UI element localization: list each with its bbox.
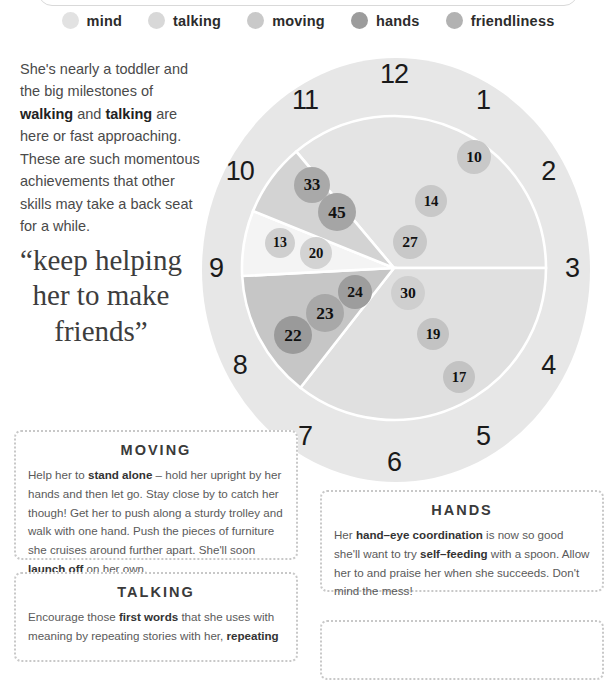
clock-pie-chart: 121234567891011 101427301917242322132033… <box>196 52 596 488</box>
clock-number-3: 3 <box>565 255 579 282</box>
data-bubble-24[interactable]: 24 <box>338 275 372 309</box>
intro-bold-walking: walking <box>20 106 73 122</box>
info-box-body: Her hand–eye coordination is now so good… <box>334 526 590 601</box>
info-box-partial <box>320 620 604 680</box>
top-rounded-panel <box>38 0 578 6</box>
legend-item-friendliness[interactable]: friendliness <box>446 12 555 29</box>
intro-line-2-pre: milestones of <box>68 83 153 99</box>
data-bubble-27[interactable]: 27 <box>393 225 427 259</box>
intro-bold-talking: talking <box>105 106 152 122</box>
data-bubble-20[interactable]: 20 <box>300 237 332 269</box>
intro-line-7: may take a back <box>55 196 161 212</box>
legend-item-talking[interactable]: talking <box>148 12 221 29</box>
moving-text-2: – hold her upright by her hands and then… <box>28 468 283 556</box>
circle-swatch-icon <box>62 12 79 29</box>
data-bubble-23[interactable]: 23 <box>306 294 344 332</box>
legend-label: mind <box>87 13 122 29</box>
clock-number-2: 2 <box>541 157 555 184</box>
talking-text-1: Encourage those <box>28 610 119 623</box>
hands-text-1: Her <box>334 528 356 541</box>
clock-number-1: 1 <box>476 86 490 113</box>
data-bubble-19[interactable]: 19 <box>417 318 449 350</box>
circle-swatch-icon <box>446 12 463 29</box>
info-box-title: TALKING <box>28 584 284 600</box>
data-bubble-10[interactable]: 10 <box>457 140 491 174</box>
legend-label: talking <box>173 13 221 29</box>
data-bubble-45[interactable]: 45 <box>318 193 356 231</box>
data-bubble-17[interactable]: 17 <box>443 361 475 393</box>
talking-bold-2: repeating <box>227 629 279 642</box>
chart-legend: mind talking moving hands friendliness <box>0 12 616 29</box>
legend-label: hands <box>376 13 420 29</box>
info-box-body: Encourage those first words that she use… <box>28 608 284 646</box>
clock-number-5: 5 <box>476 423 490 450</box>
data-bubble-30[interactable]: 30 <box>391 276 425 310</box>
clock-number-11: 11 <box>292 86 318 113</box>
talking-bold-1: first words <box>119 610 178 623</box>
pull-quote: “keep helping her to make friends” <box>16 243 186 349</box>
info-box-body: Help her to stand alone – hold her uprig… <box>28 466 284 579</box>
clock-number-6: 6 <box>387 449 401 476</box>
circle-swatch-icon <box>148 12 165 29</box>
intro-paragraph: She's nearly a toddler and the big miles… <box>20 58 202 238</box>
clock-number-7: 7 <box>298 423 312 450</box>
hands-bold-1: hand–eye coordination <box>356 528 483 541</box>
intro-line-2-post: and <box>73 106 101 122</box>
info-box-talking: TALKING Encourage those first words that… <box>14 572 298 662</box>
data-bubble-22[interactable]: 22 <box>274 316 312 354</box>
legend-item-hands[interactable]: hands <box>351 12 420 29</box>
circle-swatch-icon <box>247 12 264 29</box>
clock-number-9: 9 <box>209 255 223 282</box>
legend-item-moving[interactable]: moving <box>247 12 325 29</box>
moving-bold-1: stand alone <box>88 468 152 481</box>
circle-swatch-icon <box>351 12 368 29</box>
legend-label: friendliness <box>471 13 555 29</box>
clock-number-12: 12 <box>380 60 408 87</box>
hands-bold-2: self–feeding <box>420 547 488 560</box>
clock-number-10: 10 <box>226 157 254 184</box>
info-box-title: HANDS <box>334 502 590 518</box>
info-box-moving: MOVING Help her to stand alone – hold he… <box>14 430 298 560</box>
legend-item-mind[interactable]: mind <box>62 12 122 29</box>
data-bubble-14[interactable]: 14 <box>415 185 447 217</box>
data-bubble-13[interactable]: 13 <box>265 228 295 258</box>
info-box-hands: HANDS Her hand–eye coordination is now s… <box>320 490 604 592</box>
legend-label: moving <box>272 13 325 29</box>
clock-number-8: 8 <box>233 352 247 379</box>
moving-text-1: Help her to <box>28 468 88 481</box>
pie-slices <box>196 52 596 488</box>
clock-number-4: 4 <box>541 352 555 379</box>
info-box-title: MOVING <box>28 442 284 458</box>
